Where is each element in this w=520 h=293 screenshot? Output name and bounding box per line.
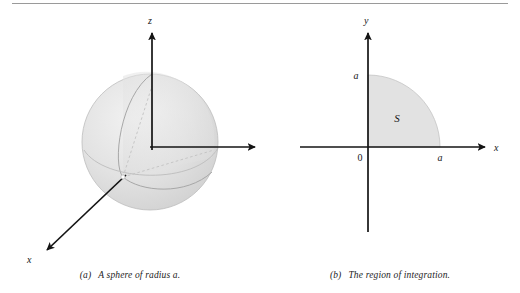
origin-point xyxy=(121,175,125,179)
x-axis-label: x xyxy=(493,142,499,153)
caption-text-a: A sphere of radius a. xyxy=(98,270,180,280)
panel-sphere: z y x (a)A sphere of radius a. xyxy=(0,0,260,293)
region-diagram: y x a a 0 S xyxy=(260,0,520,268)
sphere-diagram: z y x xyxy=(0,0,260,268)
region-label-s: S xyxy=(394,112,400,124)
z-axis-label: z xyxy=(147,15,152,26)
caption-tag-b: (b) xyxy=(330,270,342,280)
y-axis-label: y xyxy=(363,15,369,26)
x-tick-label-a: a xyxy=(438,152,443,163)
caption-tag-a: (a) xyxy=(80,270,92,280)
origin-label: 0 xyxy=(358,152,363,163)
caption-panel-a: (a)A sphere of radius a. xyxy=(0,270,260,280)
panel-region: y x a a 0 S (b)The region of integration… xyxy=(260,0,520,293)
x-axis-label: x xyxy=(26,254,32,265)
region-quarter-disk xyxy=(368,75,440,147)
caption-text-b: The region of integration. xyxy=(348,270,450,280)
caption-panel-b: (b)The region of integration. xyxy=(260,270,520,280)
figure-root: z y x (a)A sphere of radius a. xyxy=(0,0,520,293)
x-axis xyxy=(47,175,126,250)
y-tick-label-a: a xyxy=(354,70,359,81)
